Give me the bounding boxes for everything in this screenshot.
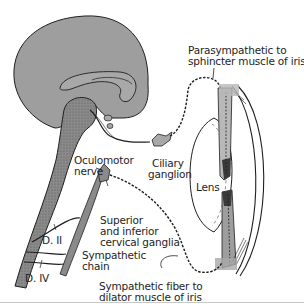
ciliary-ganglion [152,132,172,146]
label-sympathetic-fiber: Sympathetic fiber to dilator muscle of i… [99,281,203,303]
label-superior-inferior-cervical-ganglia: Superior and inferior cervical ganglia [100,215,180,248]
cornea [232,86,256,274]
label-parasympathetic: Parasympathetic to sphincter muscle of i… [188,45,304,67]
bottom-divider [0,302,304,303]
label-d2: D. II [42,235,62,246]
label-lens: Lens [196,182,219,193]
label-oculomotor-nerve: Oculomotor nerve [74,155,134,177]
label-sympathetic-chain: Sympathetic chain [82,250,146,272]
label-ciliary-ganglion: Ciliary ganglion [148,158,192,180]
label-d4: D. IV [25,273,49,284]
